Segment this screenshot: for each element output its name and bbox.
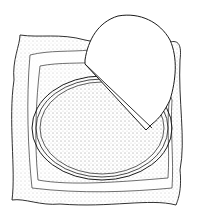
illustration	[0, 0, 197, 215]
